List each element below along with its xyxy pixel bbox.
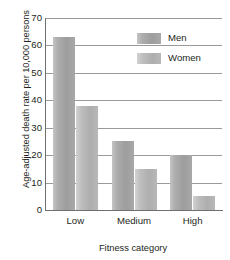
legend-label-men: Men: [168, 33, 187, 43]
legend-swatch-men: [137, 33, 161, 44]
legend-swatch-women: [137, 53, 161, 64]
x-tick-label: High: [163, 215, 223, 226]
legend-label-women: Women: [168, 53, 201, 63]
bar-chart: Age-adjusted death rate per 10,000 perso…: [0, 0, 230, 260]
legend: Men Women: [137, 30, 223, 70]
legend-item-men: Men: [137, 30, 223, 46]
x-axis-title: Fitness category: [38, 243, 228, 253]
x-tick-label: Medium: [104, 215, 164, 226]
legend-item-women: Women: [137, 50, 223, 66]
x-tick-label: Low: [45, 215, 105, 226]
